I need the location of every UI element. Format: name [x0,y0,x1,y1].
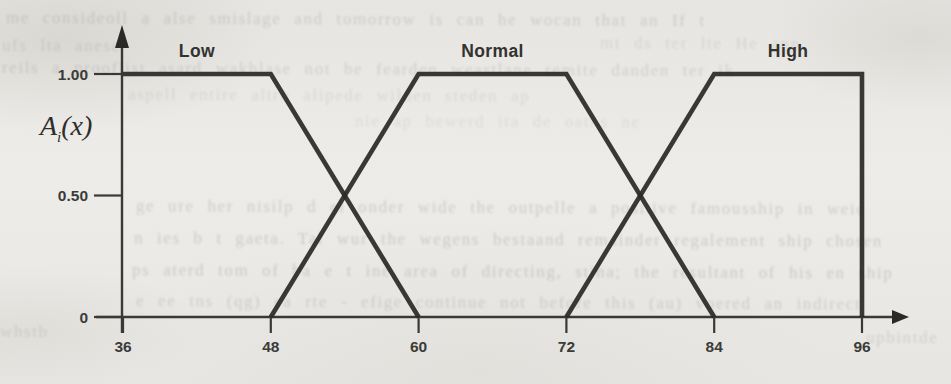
y-tick-label: 1.00 [58,66,88,83]
x-tick-label: 36 [114,338,132,355]
x-tick-label: 96 [853,338,871,355]
membership-functions-chart: 1.000.500364860728496LowNormalHigh [0,0,951,384]
series-line-normal [271,74,714,317]
x-tick-label: 48 [262,338,280,355]
series-line-low [123,74,419,317]
y-tick-label: 0 [79,309,88,326]
series-label-high: High [768,41,808,61]
series-label-normal: Normal [461,41,524,61]
x-axis-arrowhead [892,310,909,324]
scanned-book-figure: me consideoll a alse smislage and tomorr… [0,0,951,384]
y-axis-label: Ai(x) [40,110,92,146]
y-axis-label-base: A [40,110,57,141]
series-line-high [566,74,862,317]
y-axis-label-argument: (x) [61,110,92,141]
x-tick-label: 60 [410,338,427,355]
x-tick-label: 84 [706,338,724,355]
x-tick-label: 72 [558,338,575,355]
y-tick-label: 0.50 [58,187,88,204]
y-axis-arrowhead [115,25,129,48]
series-label-low: Low [179,41,215,61]
